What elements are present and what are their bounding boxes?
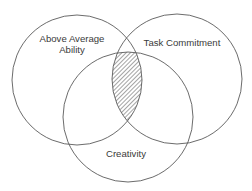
label-ability: Ability bbox=[59, 44, 85, 55]
triple-intersection-region bbox=[63, 52, 193, 182]
label-creativity: Creativity bbox=[106, 148, 146, 159]
label-above-average: Above Average bbox=[40, 33, 105, 44]
venn-diagram: Above Average Ability Task Commitment Cr… bbox=[0, 0, 252, 191]
label-task-commitment: Task Commitment bbox=[144, 37, 221, 48]
